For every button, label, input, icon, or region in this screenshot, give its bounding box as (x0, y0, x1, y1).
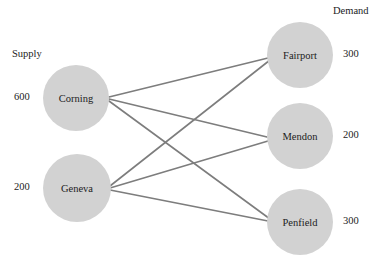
node-corning[interactable]: Corning (43, 65, 109, 131)
node-mendon-label: Mendon (283, 131, 319, 142)
node-mendon[interactable]: Mendon (267, 103, 333, 169)
node-fairport-label: Fairport (283, 50, 317, 61)
edge-group (109, 58, 270, 221)
node-geneva-label: Geneva (61, 183, 93, 194)
supply-amount-corning: 600 (14, 92, 30, 103)
supply-amount-geneva: 200 (14, 182, 30, 193)
network-diagram-canvas: Corning Geneva Fairport Mendon Penfield … (0, 0, 376, 266)
edge-corning-fairport (109, 58, 268, 97)
demand-node-group: Fairport Mendon Penfield (267, 22, 333, 255)
node-geneva[interactable]: Geneva (43, 154, 111, 222)
node-penfield[interactable]: Penfield (267, 189, 333, 255)
edge-geneva-fairport (110, 60, 270, 186)
demand-amount-mendon: 200 (343, 130, 359, 141)
supply-column-header: Supply (12, 49, 42, 60)
supply-node-group: Corning Geneva (43, 65, 111, 222)
demand-column-header: Demand (333, 6, 369, 17)
demand-amount-fairport: 300 (343, 49, 359, 60)
network-graph-svg: Corning Geneva Fairport Mendon Penfield (0, 0, 376, 266)
node-corning-label: Corning (59, 93, 94, 104)
node-fairport[interactable]: Fairport (267, 22, 333, 88)
demand-amount-penfield: 300 (343, 216, 359, 227)
edge-geneva-penfield (110, 190, 268, 221)
edge-geneva-mendon (110, 141, 268, 188)
node-penfield-label: Penfield (283, 217, 319, 228)
